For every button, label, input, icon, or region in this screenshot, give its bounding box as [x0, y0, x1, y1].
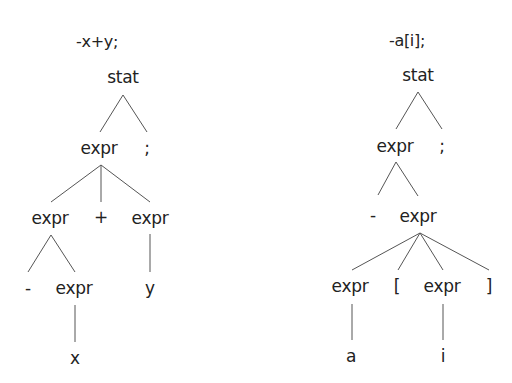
- node-expr: expr: [81, 138, 118, 158]
- parse-tree-diagram: -x+y; stat expr ; expr + expr - expr y x…: [0, 0, 512, 383]
- node-expr: expr: [400, 206, 437, 226]
- node-a: a: [346, 346, 356, 366]
- tree-edges: [0, 0, 512, 383]
- node-expr: expr: [424, 276, 461, 296]
- node-rbracket: ]: [486, 276, 492, 296]
- tree-title: -a[i];: [389, 31, 425, 51]
- node-expr: expr: [332, 276, 369, 296]
- node-y: y: [145, 278, 155, 298]
- node-expr: expr: [32, 208, 69, 228]
- node-semicolon: ;: [439, 136, 444, 156]
- node-expr: expr: [377, 136, 414, 156]
- node-i: i: [441, 346, 445, 366]
- node-minus: -: [370, 205, 376, 225]
- node-stat: stat: [402, 65, 433, 85]
- node-x: x: [70, 348, 80, 368]
- node-expr: expr: [56, 278, 93, 298]
- node-expr: expr: [132, 208, 169, 228]
- node-lbracket: [: [394, 276, 400, 296]
- node-semicolon: ;: [144, 138, 149, 158]
- node-plus: +: [94, 207, 108, 227]
- node-stat: stat: [107, 67, 138, 87]
- tree-title: -x+y;: [76, 32, 118, 52]
- node-minus: -: [25, 278, 31, 298]
